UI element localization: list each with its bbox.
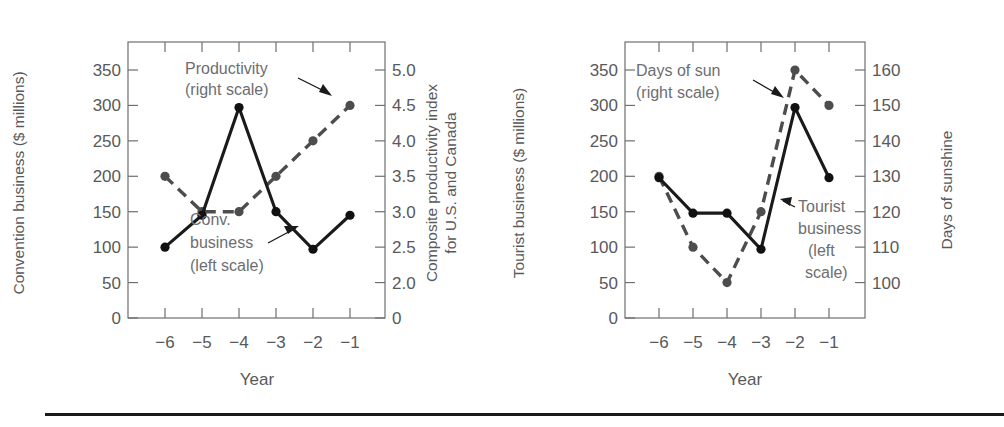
right-tick-label: 0 bbox=[392, 309, 401, 328]
x-tick-label: −4 bbox=[717, 333, 736, 352]
right-y-axis-ticks bbox=[375, 70, 385, 318]
right-tick-label: 130 bbox=[872, 167, 900, 186]
left-y-axis-ticks bbox=[625, 70, 635, 318]
left-y-axis-tick-labels: 0 50 100 150 200 250 300 350 bbox=[590, 61, 618, 328]
annotation-productivity-line2: (right scale) bbox=[185, 81, 269, 98]
annotation-tourist-line1: Tourist bbox=[798, 198, 846, 215]
right-tick-label: 140 bbox=[872, 132, 900, 151]
annotation-productivity-line1: Productivity bbox=[185, 60, 268, 77]
right-tick-label: 3.5 bbox=[392, 167, 416, 186]
right-tick-label: 100 bbox=[872, 274, 900, 293]
annotation-tourist-line2: business bbox=[798, 220, 861, 237]
left-tick-label: 200 bbox=[93, 167, 121, 186]
left-y-axis-tick-labels: 0 50 100 150 200 250 300 350 bbox=[93, 61, 121, 328]
annotation-conv-line3: (left scale) bbox=[190, 257, 264, 274]
x-tick-label: −5 bbox=[192, 333, 211, 352]
right-tick-label: 160 bbox=[872, 61, 900, 80]
series-conv-business-markers bbox=[160, 103, 354, 254]
x-tick-label: −3 bbox=[751, 333, 770, 352]
left-y-axis-title: Tourist business ($ millions) bbox=[510, 88, 527, 278]
chart-panel-tourist-sunshine: Tourist business ($ millions) Days of su… bbox=[500, 0, 1004, 400]
annotation-tourist-business: Tourist business (left scale) bbox=[780, 197, 861, 281]
right-tick-label: 2.0 bbox=[392, 274, 416, 293]
x-tick-label: −6 bbox=[155, 333, 174, 352]
left-tick-label: 350 bbox=[590, 61, 618, 80]
tourist-sunshine-svg: Tourist business ($ millions) Days of su… bbox=[500, 0, 1004, 400]
chart-panel-convention-productivity: Convention business ($ millions) Composi… bbox=[0, 0, 500, 400]
x-tick-label: −4 bbox=[229, 333, 248, 352]
left-tick-label: 300 bbox=[93, 96, 121, 115]
x-axis-tick-labels: −6 −5 −4 −3 −2 −1 bbox=[649, 333, 838, 352]
annotation-sun-line1: Days of sun bbox=[636, 62, 720, 79]
right-tick-label: 120 bbox=[872, 203, 900, 222]
right-y-axis-tick-labels: 0 2.0 2.5 3.0 3.5 4.0 4.5 5.0 bbox=[392, 61, 416, 328]
annotation-days-of-sun: Days of sun (right scale) bbox=[636, 62, 784, 101]
right-y-axis-tick-labels: 100 110 120 130 140 150 160 bbox=[872, 61, 900, 293]
two-panel-line-chart-figure: Convention business ($ millions) Composi… bbox=[0, 0, 1004, 427]
right-tick-label: 3.0 bbox=[392, 203, 416, 222]
convention-productivity-svg: Convention business ($ millions) Composi… bbox=[0, 0, 500, 400]
x-tick-label: −2 bbox=[785, 333, 804, 352]
bottom-separator-rule bbox=[45, 413, 1004, 416]
right-tick-label: 4.5 bbox=[392, 96, 416, 115]
right-y-axis-title-line2: for U.S. and Canada bbox=[442, 112, 459, 254]
left-tick-label: 0 bbox=[112, 309, 121, 328]
left-tick-label: 250 bbox=[590, 132, 618, 151]
annotation-tourist-line4: scale) bbox=[805, 264, 848, 281]
series-days-of-sun-line bbox=[659, 70, 829, 283]
right-y-axis-title: Days of sunshine bbox=[938, 131, 955, 250]
left-tick-label: 100 bbox=[93, 238, 121, 257]
left-tick-label: 200 bbox=[590, 167, 618, 186]
right-tick-label: 5.0 bbox=[392, 61, 416, 80]
x-tick-label: −3 bbox=[266, 333, 285, 352]
left-tick-label: 50 bbox=[102, 274, 121, 293]
series-conv-business-line bbox=[165, 108, 350, 250]
left-tick-label: 150 bbox=[93, 203, 121, 222]
x-axis-title: Year bbox=[240, 370, 275, 389]
annotation-productivity: Productivity (right scale) bbox=[185, 60, 332, 98]
left-tick-label: 300 bbox=[590, 96, 618, 115]
right-y-axis-title-line1: Composite productivity index bbox=[423, 84, 440, 282]
left-tick-label: 350 bbox=[93, 61, 121, 80]
annotation-conv-line1: Conv. bbox=[190, 211, 231, 228]
right-tick-label: 2.5 bbox=[392, 238, 416, 257]
x-tick-label: −5 bbox=[683, 333, 702, 352]
right-tick-label: 110 bbox=[872, 238, 899, 257]
right-tick-label: 4.0 bbox=[392, 132, 416, 151]
x-tick-label: −2 bbox=[303, 333, 322, 352]
x-axis-title: Year bbox=[728, 370, 763, 389]
right-tick-label: 150 bbox=[872, 96, 900, 115]
annotation-conv-line2: business bbox=[190, 234, 253, 251]
left-tick-label: 100 bbox=[590, 238, 618, 257]
x-tick-label: −1 bbox=[819, 333, 838, 352]
right-y-axis-ticks bbox=[855, 70, 865, 283]
x-axis-tick-labels: −6 −5 −4 −3 −2 −1 bbox=[155, 333, 359, 352]
annotation-tourist-line3: (left bbox=[808, 242, 835, 259]
left-tick-label: 250 bbox=[93, 132, 121, 151]
annotation-sun-line2: (right scale) bbox=[636, 84, 720, 101]
x-tick-label: −6 bbox=[649, 333, 668, 352]
left-tick-label: 50 bbox=[599, 274, 618, 293]
left-y-axis-title: Convention business ($ millions) bbox=[10, 71, 27, 294]
left-tick-label: 150 bbox=[590, 203, 618, 222]
left-tick-label: 0 bbox=[609, 309, 618, 328]
left-y-axis-ticks bbox=[128, 70, 138, 318]
x-tick-label: −1 bbox=[340, 333, 359, 352]
